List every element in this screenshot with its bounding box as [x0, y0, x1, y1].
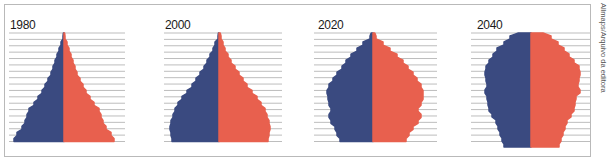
pyramids-canvas — [0, 0, 610, 165]
credit-text: Allmaps/Arquivo da editora — [599, 3, 608, 93]
male-population-area — [327, 33, 373, 142]
female-population-area — [531, 33, 580, 147]
pyramid-2020-graphic — [314, 33, 437, 142]
female-population-area — [219, 33, 270, 142]
female-population-area — [373, 33, 423, 142]
male-population-area — [485, 33, 531, 147]
male-population-area — [170, 33, 219, 142]
pyramid-1980-graphic — [9, 33, 125, 142]
pyramid-2040-graphic — [471, 33, 590, 147]
male-population-area — [14, 33, 64, 142]
image-credit: Allmaps/Arquivo da editora — [599, 2, 609, 94]
female-population-area — [64, 33, 114, 142]
pyramid-2000-graphic — [164, 33, 282, 142]
